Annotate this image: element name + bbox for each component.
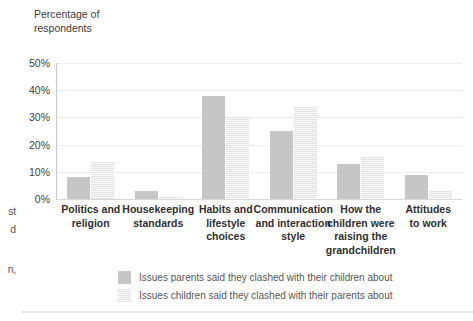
y-axis-tick-label: 0%: [4, 193, 50, 205]
bar[interactable]: [270, 131, 293, 199]
plot-area: [57, 63, 462, 199]
bar[interactable]: [135, 191, 158, 199]
legend-swatch-icon: [118, 271, 131, 284]
x-axis-category-label-line: raising the: [321, 230, 401, 244]
x-axis-category-label-line: to work: [389, 217, 469, 231]
y-axis-tick-label: 10%: [4, 166, 50, 178]
bar[interactable]: [202, 96, 225, 199]
bar-group: [327, 63, 395, 199]
bar[interactable]: [429, 191, 452, 199]
gridline: [57, 199, 462, 200]
bar-group: [260, 63, 328, 199]
bar[interactable]: [91, 162, 114, 199]
legend-item[interactable]: Issues children said they clashed with t…: [118, 287, 392, 303]
y-axis-tick-label: 40%: [4, 84, 50, 96]
legend-swatch-icon: [118, 289, 131, 302]
y-axis-tick-labels: 0%10%20%30%40%50%: [0, 63, 50, 199]
bar-group: [192, 63, 260, 199]
bar[interactable]: [67, 177, 90, 199]
footer-divider: [22, 311, 473, 313]
x-axis-category-label-line: Attitudes: [389, 203, 469, 217]
bar-group: [395, 63, 463, 199]
y-axis-tick-label: 30%: [4, 111, 50, 123]
x-axis-category-label-line: grandchildren: [321, 244, 401, 258]
legend-item[interactable]: Issues parents said they clashed with th…: [118, 269, 392, 285]
bar[interactable]: [226, 117, 249, 199]
bar[interactable]: [337, 164, 360, 199]
legend-label: Issues parents said they clashed with th…: [139, 272, 392, 283]
x-axis-category-label: Attitudesto work: [389, 203, 469, 230]
chart-legend: Issues parents said they clashed with th…: [118, 269, 392, 305]
bar[interactable]: [294, 107, 317, 199]
bar-group: [57, 63, 125, 199]
x-axis-category-labels: Politics andreligionHousekeepingstandard…: [57, 203, 462, 261]
bar[interactable]: [405, 175, 428, 199]
bar[interactable]: [361, 157, 384, 199]
y-axis-tick-label: 50%: [4, 57, 50, 69]
y-axis-tick-label: 20%: [4, 139, 50, 151]
legend-label: Issues children said they clashed with t…: [139, 290, 392, 301]
bar[interactable]: [159, 197, 182, 199]
bar-group: [125, 63, 193, 199]
